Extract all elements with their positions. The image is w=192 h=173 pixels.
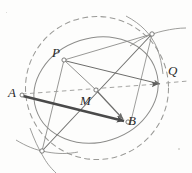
scan-speck xyxy=(178,148,180,150)
point-lower-left-vertex xyxy=(40,149,44,153)
label-A: A xyxy=(8,86,16,99)
figure-canvas xyxy=(0,0,192,173)
scan-speck xyxy=(6,12,7,13)
label-B: B xyxy=(128,114,136,127)
label-M: M xyxy=(80,94,91,107)
arc-lower-left-a xyxy=(16,140,78,154)
geometry-figure: P Q A M B xyxy=(0,0,192,173)
point-A xyxy=(20,93,24,97)
label-Q: Q xyxy=(168,64,177,77)
point-upper-right-vertex xyxy=(150,32,154,36)
arc-upper-right-b xyxy=(130,28,186,46)
label-P: P xyxy=(52,46,60,59)
point-M xyxy=(94,88,98,92)
segment-Q-dashed-tail xyxy=(166,81,188,83)
point-P xyxy=(62,58,66,62)
segment-P-Q xyxy=(66,61,160,84)
